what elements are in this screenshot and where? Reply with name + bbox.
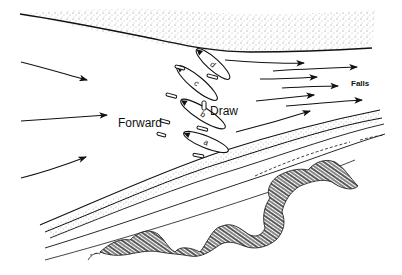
canoes: a b c d [157, 45, 234, 158]
current-arrow-icon [286, 100, 362, 106]
diagram-illustration: a b c d [0, 0, 402, 275]
canoe-ferry-diagram: a b c d [0, 0, 402, 275]
current-arrow-icon [21, 157, 86, 178]
falls-label: Falls [351, 79, 369, 88]
far-bank [20, 8, 375, 52]
forward-label: Forward [118, 116, 162, 130]
current-arrow-icon [21, 115, 107, 121]
current-arrow-icon [273, 67, 357, 71]
current-arrow-icon [260, 77, 317, 79]
current-arrow-icon [256, 95, 314, 101]
canoe-a: a [181, 127, 230, 156]
current-arrow-icon [282, 86, 338, 88]
shrubs [88, 160, 358, 260]
draw-label: Draw [210, 104, 238, 118]
current-arrow-icon [21, 62, 87, 80]
current-arrows-left [21, 62, 107, 178]
current-arrow-icon [225, 60, 304, 63]
